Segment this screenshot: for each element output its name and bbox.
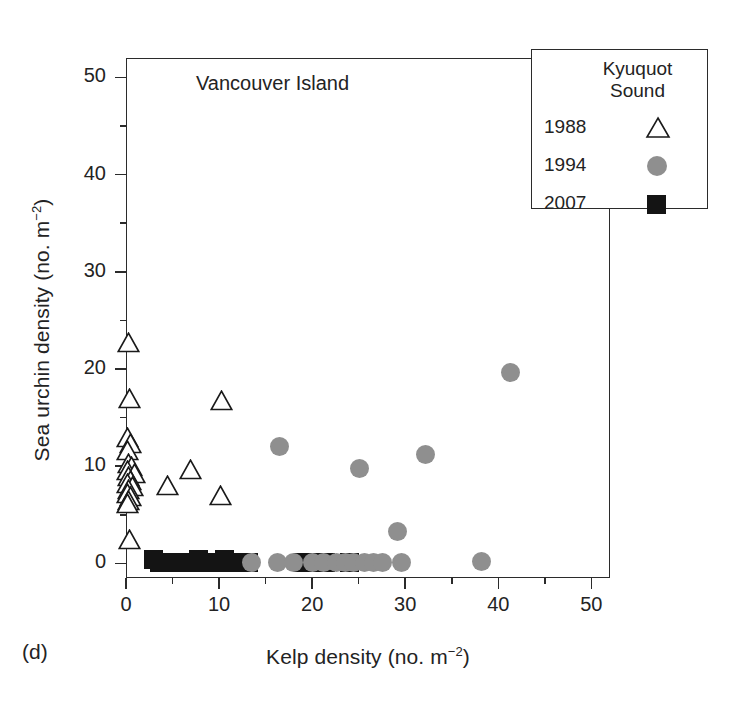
data-point-1988 <box>118 388 141 409</box>
x-major-tick <box>404 578 406 589</box>
x-tick-label: 10 <box>189 593 249 616</box>
x-major-tick <box>218 578 220 589</box>
y-tick-label: 10 <box>46 453 106 476</box>
x-minor-tick <box>172 578 174 584</box>
data-point-1988 <box>179 459 202 480</box>
x-major-tick <box>125 578 127 589</box>
filled-square-icon <box>644 190 672 216</box>
y-minor-tick <box>120 125 126 127</box>
filled-circle-icon <box>644 152 672 178</box>
data-point-1988 <box>116 493 139 514</box>
y-minor-tick <box>120 222 126 224</box>
legend-label-2007: 2007 <box>544 192 586 214</box>
y-minor-tick <box>120 417 126 419</box>
x-axis-title-text: Kelp density (no. m−2) <box>266 645 470 668</box>
x-tick-label: 50 <box>561 593 621 616</box>
y-minor-tick <box>120 320 126 322</box>
x-tick-label: 40 <box>468 593 528 616</box>
y-major-tick <box>115 77 126 79</box>
y-major-tick <box>115 271 126 273</box>
legend-row-1988: 1988 <box>532 112 707 146</box>
y-tick-label: 30 <box>46 259 106 282</box>
x-minor-tick <box>265 578 267 584</box>
y-tick-label: 20 <box>46 356 106 379</box>
y-major-tick <box>115 174 126 176</box>
legend-row-1994: 1994 <box>532 150 707 184</box>
legend-box: Kyuquot Sound 1988 1994 2007 <box>531 49 708 209</box>
x-major-tick <box>591 578 593 589</box>
data-point-1988 <box>209 485 232 506</box>
data-point-1988 <box>118 529 141 550</box>
x-tick-label: 20 <box>282 593 342 616</box>
legend-label-1994: 1994 <box>544 154 586 176</box>
legend-row-2007: 2007 <box>532 188 707 222</box>
legend-label-1988: 1988 <box>544 116 586 138</box>
x-minor-tick <box>544 578 546 584</box>
y-major-tick <box>115 563 126 565</box>
y-axis-title-text: Sea urchin density (no. m−2) <box>30 199 53 462</box>
y-tick-label: 50 <box>46 64 106 87</box>
x-major-tick <box>311 578 313 589</box>
data-point-1988 <box>156 475 179 496</box>
x-major-tick <box>498 578 500 589</box>
x-minor-tick <box>451 578 453 584</box>
legend-title-line2: Sound <box>568 80 707 102</box>
y-tick-label: 40 <box>46 162 106 185</box>
legend-title: Kyuquot Sound <box>532 58 707 102</box>
x-tick-label: 30 <box>375 593 435 616</box>
y-minor-tick <box>120 514 126 516</box>
x-tick-label: 0 <box>96 593 156 616</box>
x-axis-title: Kelp density (no. m−2) <box>126 645 610 669</box>
x-minor-tick <box>358 578 360 584</box>
panel-letter: (d) <box>22 640 48 664</box>
scatter-plot-figure: Sea urchin density (no. m−2) Kelp densit… <box>0 0 736 713</box>
y-tick-label: 0 <box>46 550 106 573</box>
y-major-tick <box>115 368 126 370</box>
legend-title-line1: Kyuquot <box>568 58 707 80</box>
region-annotation: Vancouver Island <box>196 72 349 95</box>
open-triangle-icon <box>644 114 672 140</box>
data-point-1988 <box>210 390 233 411</box>
data-point-1988 <box>117 332 140 353</box>
